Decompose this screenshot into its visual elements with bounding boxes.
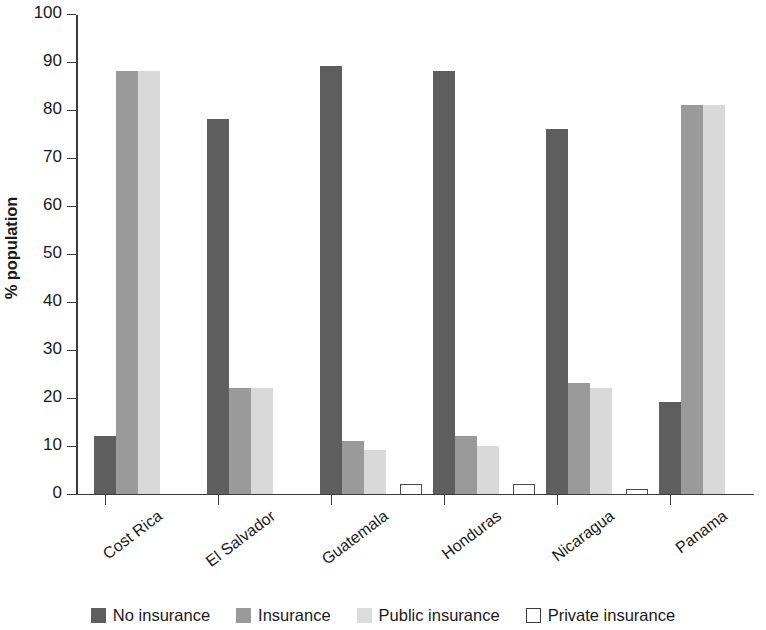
x-axis-tick xyxy=(105,495,107,505)
y-axis-tick: 40 xyxy=(67,302,76,304)
bar-public-insurance[interactable] xyxy=(251,388,273,494)
x-axis-tick xyxy=(218,495,220,505)
bar-set xyxy=(94,14,196,494)
y-axis-tick-label: 10 xyxy=(22,435,62,455)
medium-gray-swatch xyxy=(236,608,251,623)
bar-no-insurance[interactable] xyxy=(433,71,455,493)
bar-set xyxy=(433,14,535,494)
legend-item-label: Public insurance xyxy=(379,606,500,625)
x-axis-line xyxy=(76,494,754,496)
bar-private-insurance[interactable] xyxy=(626,489,648,494)
plot-area: 0102030405060708090100 xyxy=(76,15,754,495)
bar-no-insurance[interactable] xyxy=(207,119,229,493)
bar-set xyxy=(546,14,648,494)
y-axis-tick: 0 xyxy=(67,494,76,496)
bar-insurance[interactable] xyxy=(116,71,138,493)
x-axis-tick xyxy=(670,495,672,505)
legend-item[interactable]: Insurance xyxy=(236,606,330,625)
y-axis-tick-label: 50 xyxy=(22,243,62,263)
y-axis-tick-label: 90 xyxy=(22,51,62,71)
y-axis-tick-label: 60 xyxy=(22,195,62,215)
bar-no-insurance[interactable] xyxy=(659,402,681,493)
bar-public-insurance[interactable] xyxy=(590,388,612,494)
bar-no-insurance[interactable] xyxy=(94,436,116,494)
y-axis-tick: 10 xyxy=(67,446,76,448)
y-axis-tick-label: 80 xyxy=(22,99,62,119)
light-gray-swatch xyxy=(357,608,372,623)
y-axis-tick: 100 xyxy=(67,14,76,16)
y-axis-tick: 60 xyxy=(67,206,76,208)
bar-set xyxy=(207,14,309,494)
y-axis-line xyxy=(76,15,78,495)
bar-chart-figure: % population 0102030405060708090100 Cost… xyxy=(0,0,766,630)
bar-insurance[interactable] xyxy=(455,436,477,494)
bar-no-insurance[interactable] xyxy=(546,129,568,494)
legend-item-label: No insurance xyxy=(113,606,210,625)
bar-insurance[interactable] xyxy=(229,388,251,494)
y-axis-tick: 50 xyxy=(67,254,76,256)
white-outline-swatch xyxy=(526,608,541,623)
legend-item[interactable]: Private insurance xyxy=(526,606,675,625)
bar-set xyxy=(659,14,761,494)
y-axis-tick: 20 xyxy=(67,398,76,400)
bar-public-insurance[interactable] xyxy=(477,446,499,494)
legend-item[interactable]: No insurance xyxy=(91,606,210,625)
x-axis-tick xyxy=(444,495,446,505)
chart-legend: No insuranceInsurancePublic insurancePri… xyxy=(0,606,766,625)
bar-insurance[interactable] xyxy=(681,105,703,494)
y-axis-tick-label: 70 xyxy=(22,147,62,167)
bar-no-insurance[interactable] xyxy=(320,66,342,493)
y-axis-tick-label: 100 xyxy=(22,3,62,23)
bar-set xyxy=(320,14,422,494)
bar-insurance[interactable] xyxy=(342,441,364,494)
y-axis-tick-label: 30 xyxy=(22,339,62,359)
bar-public-insurance[interactable] xyxy=(138,71,160,493)
x-axis-tick xyxy=(331,495,333,505)
y-axis-tick: 70 xyxy=(67,158,76,160)
y-axis-tick: 90 xyxy=(67,62,76,64)
bar-private-insurance[interactable] xyxy=(400,484,422,494)
legend-item-label: Insurance xyxy=(258,606,330,625)
bar-public-insurance[interactable] xyxy=(364,450,386,493)
y-axis-tick-label: 0 xyxy=(22,483,62,503)
legend-item[interactable]: Public insurance xyxy=(357,606,500,625)
y-axis-tick-label: 20 xyxy=(22,387,62,407)
y-axis-tick: 80 xyxy=(67,110,76,112)
legend-item-label: Private insurance xyxy=(548,606,675,625)
y-axis-title: % population xyxy=(2,168,24,328)
bar-insurance[interactable] xyxy=(568,383,590,493)
x-axis-tick xyxy=(557,495,559,505)
y-axis-tick: 30 xyxy=(67,350,76,352)
bar-private-insurance[interactable] xyxy=(513,484,535,494)
y-axis-tick-label: 40 xyxy=(22,291,62,311)
dark-gray-swatch xyxy=(91,608,106,623)
bar-public-insurance[interactable] xyxy=(703,105,725,494)
